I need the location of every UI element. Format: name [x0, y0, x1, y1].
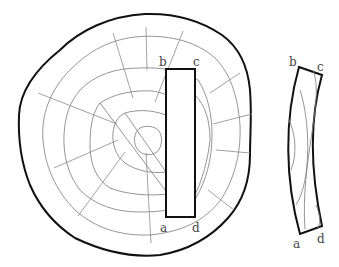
ray — [146, 27, 147, 70]
ray — [208, 190, 234, 210]
growth-ring-2 — [113, 111, 166, 173]
distorted-board-ring-mid — [296, 90, 308, 205]
corner-label-c: c — [317, 60, 324, 74]
log-cross-section: b c a d — [19, 14, 252, 256]
corner-label-c: c — [193, 55, 200, 69]
distorted-board-ring-outer — [304, 70, 316, 229]
corner-label-a: a — [160, 221, 167, 235]
distorted-board-ring-inner — [289, 120, 295, 170]
growth-ring-5 — [43, 36, 240, 235]
distorted-board: b c a d — [288, 55, 325, 251]
ray — [216, 150, 250, 153]
ray — [146, 153, 151, 243]
ray — [78, 152, 125, 216]
corner-label-b: b — [159, 55, 167, 69]
ray — [210, 73, 240, 93]
ray — [38, 93, 117, 124]
corner-label-b: b — [289, 55, 297, 69]
ray — [213, 114, 252, 124]
corner-label-d: d — [192, 221, 200, 235]
corner-label-d: d — [317, 232, 325, 246]
corner-label-a: a — [293, 237, 300, 251]
growth-ring-pith — [134, 126, 161, 154]
distorted-board-outline — [288, 67, 322, 234]
board-rectangle — [166, 69, 195, 217]
wood-shrinkage-diagram: b c a d b c a d — [0, 0, 339, 267]
ray — [113, 33, 133, 98]
